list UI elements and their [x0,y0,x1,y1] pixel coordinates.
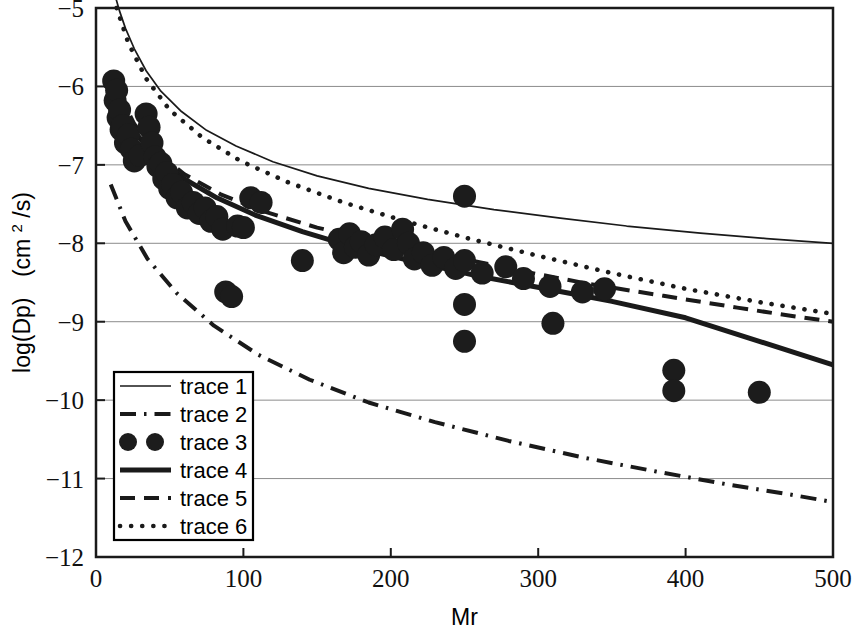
y-axis-title-unit-pre: (cm [9,239,35,277]
data-point-marker [538,275,561,298]
data-point-marker [232,216,255,239]
data-point-marker [220,285,243,308]
legend-item-label: trace 4 [180,458,247,483]
figure-background [0,0,861,640]
legend-item-label: trace 1 [180,374,247,399]
scatter-plot-figure: 0100200300400500 −12−11−10−9−8−7−6−5 Mr … [0,0,861,640]
y-tick-label: −9 [57,309,84,336]
y-tick-label: −12 [45,544,84,571]
data-point-marker [541,312,564,335]
y-axis-title-unit-exponent: 2 [8,224,25,232]
x-tick-label: 200 [372,565,410,592]
y-axis-title-unit-post: /s) [9,192,35,218]
y-tick-label: −8 [57,230,84,257]
legend-marker-icon [119,433,137,451]
data-point-marker [105,79,128,102]
data-point-marker [662,379,685,402]
data-point-marker [512,267,535,290]
data-point-marker [471,262,494,285]
y-tick-label: −10 [45,387,84,414]
x-tick-label: 400 [667,565,705,592]
x-tick-label: 500 [814,565,852,592]
y-tick-label: −7 [57,152,84,179]
legend-item-label: trace 3 [180,430,247,455]
x-tick-label: 100 [225,565,263,592]
y-tick-label: −6 [57,73,84,100]
x-tick-label: 0 [90,565,103,592]
data-point-marker [593,277,616,300]
chart-page: 0100200300400500 −12−11−10−9−8−7−6−5 Mr … [0,0,861,640]
data-point-marker [291,249,314,272]
data-point-marker [453,293,476,316]
legend-item-label: trace 6 [180,514,247,539]
data-point-marker [571,280,594,303]
y-axis-title-main: log(Dp) [9,297,35,372]
data-point-marker [453,185,476,208]
legend-marker-icon [146,433,164,451]
legend[interactable]: trace 1trace 2trace 3trace 4trace 5trace… [114,372,253,540]
x-tick-label: 300 [519,565,557,592]
data-point-marker [748,381,771,404]
y-tick-label: −5 [57,0,84,22]
data-point-marker [250,191,273,214]
data-point-marker [453,330,476,353]
legend-item-label: trace 2 [180,402,247,427]
data-point-marker [662,359,685,382]
x-axis-title: Mr [451,604,478,630]
y-tick-label: −11 [46,466,84,493]
legend-item-label: trace 5 [180,486,247,511]
